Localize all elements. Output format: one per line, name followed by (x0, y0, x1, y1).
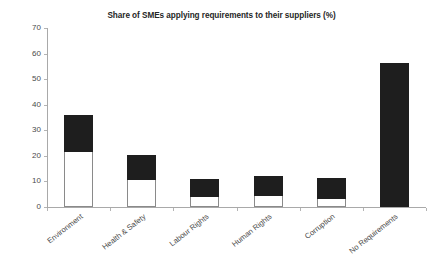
bar-human-rights[interactable] (254, 176, 283, 207)
bar-segment-upper (64, 115, 93, 152)
x-tick-label: No Requirements (268, 212, 400, 275)
y-tick-mark (44, 54, 47, 55)
x-tick-label: Human Rights (142, 212, 274, 275)
y-tick-mark (44, 79, 47, 80)
bar-segment-lower (64, 152, 93, 207)
y-tick-label: 10 (21, 176, 41, 185)
bar-health-safety[interactable] (127, 155, 156, 207)
y-tick-mark (44, 105, 47, 106)
y-tick-label: 50 (21, 74, 41, 83)
bar-environment[interactable] (64, 115, 93, 207)
y-tick-label: 20 (21, 151, 41, 160)
y-tick-mark (44, 28, 47, 29)
x-tick-mark (426, 208, 427, 211)
x-tick-mark (110, 208, 111, 211)
y-tick-mark (44, 156, 47, 157)
y-tick-mark (44, 130, 47, 131)
x-tick-label: Corruption (205, 212, 337, 275)
bar-no-requirements[interactable] (380, 63, 409, 207)
y-tick-label: 60 (21, 49, 41, 58)
x-tick-mark (47, 208, 48, 211)
bar-segment-upper (254, 176, 283, 196)
x-tick-label: Labour Rights (79, 212, 211, 275)
y-tick-label: 40 (21, 100, 41, 109)
y-tick-mark (44, 181, 47, 182)
chart-figure: Share of SMEs applying requirements to t… (0, 0, 443, 275)
bar-segment-lower (127, 180, 156, 207)
y-axis-line (47, 28, 48, 207)
x-tick-mark (237, 208, 238, 211)
bar-segment-upper (190, 179, 219, 197)
bar-segment-upper (380, 63, 409, 207)
chart-title: Share of SMEs applying requirements to t… (0, 11, 443, 20)
x-tick-mark (300, 208, 301, 211)
y-tick-label: 30 (21, 125, 41, 134)
bar-labour-rights[interactable] (190, 179, 219, 207)
plot-area: 010203040506070 EnvironmentHealth & Safe… (47, 28, 426, 209)
y-tick-label: 0 (21, 202, 41, 211)
bar-segment-lower (190, 197, 219, 207)
y-tick-label: 70 (21, 23, 41, 32)
x-tick-mark (363, 208, 364, 211)
bar-segment-lower (254, 196, 283, 207)
bar-segment-upper (127, 155, 156, 181)
bar-segment-upper (317, 178, 346, 199)
bar-segment-lower (317, 199, 346, 207)
bar-corruption[interactable] (317, 178, 346, 207)
x-tick-mark (173, 208, 174, 211)
